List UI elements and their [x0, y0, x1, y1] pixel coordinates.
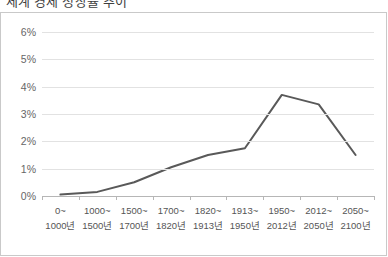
x-axis-label-line1: 1000~	[79, 203, 116, 218]
y-axis-tick-label: 2%	[21, 135, 36, 147]
x-axis-label: 2050~2100년	[337, 203, 374, 233]
page-title: 세계 경제 성장률 추이	[6, 0, 127, 10]
gridline-1pct	[42, 169, 374, 170]
gridline-2pct	[42, 141, 374, 142]
gridline-6pct	[42, 32, 374, 33]
x-axis-tick	[153, 196, 154, 200]
x-axis-label-line2: 1700년	[116, 218, 153, 233]
x-axis-label: 1820~1913년	[190, 203, 227, 233]
x-axis-tick	[300, 196, 301, 200]
chart-page: 세계 경제 성장률 추이 6%5%4%3%2%1%0% 0~1000년1000~…	[0, 0, 388, 257]
x-axis-labels: 0~1000년1000~1500년1500~1700년1700~1820년182…	[26, 203, 386, 237]
y-axis-tick-label: 3%	[21, 108, 36, 120]
line-series-path	[60, 95, 355, 195]
x-axis-label: 1000~1500년	[79, 203, 116, 233]
x-axis-label-line2: 1820년	[153, 218, 190, 233]
x-axis-label-line1: 1700~	[153, 203, 190, 218]
y-axis-labels: 6%5%4%3%2%1%0%	[0, 32, 36, 196]
y-axis-tick-label: 6%	[21, 26, 36, 38]
plot-area	[42, 32, 374, 196]
gridline-4pct	[42, 87, 374, 88]
x-axis-label-line2: 2012년	[263, 218, 300, 233]
y-axis-tick-label: 4%	[21, 81, 36, 93]
x-axis-tick	[116, 196, 117, 200]
x-axis-label-line2: 1950년	[226, 218, 263, 233]
x-axis-label: 1700~1820년	[153, 203, 190, 233]
x-axis-tick	[42, 196, 43, 200]
x-axis-label: 1913~1950년	[226, 203, 263, 233]
x-axis-label-line1: 0~	[42, 203, 79, 218]
x-axis-label-line1: 2050~	[337, 203, 374, 218]
x-axis-label-line1: 1913~	[226, 203, 263, 218]
x-axis-label-line1: 1820~	[190, 203, 227, 218]
y-axis-tick-label: 1%	[21, 163, 36, 175]
x-axis-tick	[263, 196, 264, 200]
x-axis-label-line1: 1500~	[116, 203, 153, 218]
x-axis-tick	[190, 196, 191, 200]
x-axis-tick	[79, 196, 80, 200]
x-axis-tick	[374, 196, 375, 200]
x-axis-tick	[337, 196, 338, 200]
gridline-3pct	[42, 114, 374, 115]
x-axis-tick	[226, 196, 227, 200]
x-axis-label: 1500~1700년	[116, 203, 153, 233]
x-axis-label-line2: 2100년	[337, 218, 374, 233]
gridline-5pct	[42, 59, 374, 60]
x-axis-label: 0~1000년	[42, 203, 79, 233]
x-axis-label-line2: 1913년	[190, 218, 227, 233]
x-axis-label-line1: 1950~	[263, 203, 300, 218]
y-axis-tick-label: 0%	[21, 190, 36, 202]
x-axis-label: 1950~2012년	[263, 203, 300, 233]
x-axis-label-line2: 1000년	[42, 218, 79, 233]
x-axis-label-line2: 1500년	[79, 218, 116, 233]
x-axis-label-line2: 2050년	[300, 218, 337, 233]
y-axis-tick-label: 5%	[21, 53, 36, 65]
x-axis-label-line1: 2012~	[300, 203, 337, 218]
x-axis-ticks	[42, 196, 374, 201]
x-axis-label: 2012~2050년	[300, 203, 337, 233]
